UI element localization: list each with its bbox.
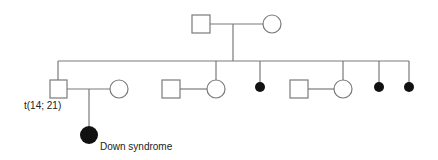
g1-mother-circle <box>263 15 281 33</box>
g2-son-spouse-circle <box>110 80 128 98</box>
g2-son-square <box>50 80 67 98</box>
g2-daughter-2-circle <box>334 80 352 98</box>
g2-miscarriage-1-dot <box>255 82 265 92</box>
down-syndrome-label: Down syndrome <box>100 141 172 152</box>
g2-daughter-2-spouse-square <box>290 80 308 98</box>
g2-miscarriage-3-dot <box>404 82 414 92</box>
g2-miscarriage-2-dot <box>374 82 384 92</box>
g3-affected-daughter-circle <box>80 126 98 144</box>
g1-father-square <box>192 15 210 33</box>
translocation-label: t(14; 21) <box>24 100 61 111</box>
g2-daughter-1-spouse-square <box>162 80 180 98</box>
g2-daughter-1-circle <box>207 80 225 98</box>
pedigree-chart <box>0 0 438 160</box>
